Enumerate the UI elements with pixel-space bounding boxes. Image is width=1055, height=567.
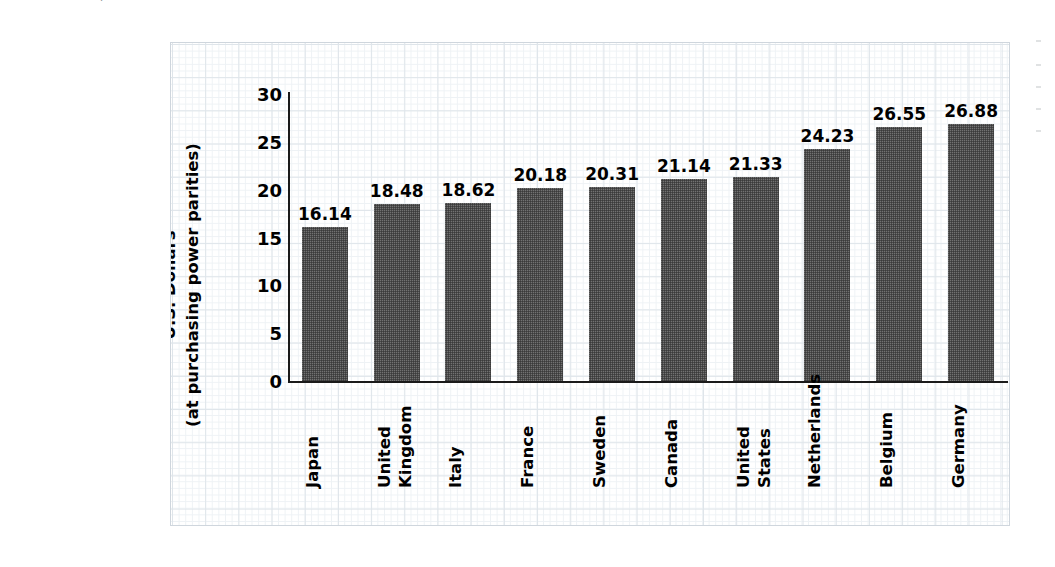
- y-axis-tick-5: 5: [269, 323, 282, 344]
- x-axis-category-label-line: United: [374, 338, 395, 488]
- bar-value-label: 21.33: [729, 154, 783, 174]
- y-axis-tick-0: 0: [269, 371, 282, 392]
- plot-area: 051015202530 16.14Japan18.48UnitedKingdo…: [289, 94, 1007, 381]
- scan-artifact-mark: [1036, 40, 1041, 42]
- bar-value-label: 20.31: [585, 164, 639, 184]
- bar-value-label: 26.55: [872, 104, 926, 124]
- x-axis-category-label: Japan: [302, 338, 348, 488]
- bar-value-label: 24.23: [801, 126, 855, 146]
- bar-group: 18.62Italy: [433, 94, 505, 381]
- bar-group: 18.48UnitedKingdom: [361, 94, 433, 381]
- x-axis-category-label: UnitedStates: [733, 338, 779, 488]
- x-axis-category-label-line: Kingdom: [395, 338, 416, 488]
- x-axis-category-label-line: Sweden: [589, 338, 610, 488]
- y-axis-tick-30: 30: [257, 84, 282, 105]
- y-axis-tick-20: 20: [257, 179, 282, 200]
- bar-group: 20.31Sweden: [576, 94, 648, 381]
- y-axis-tick-10: 10: [257, 275, 282, 296]
- bar-group: 16.14Japan: [289, 94, 361, 381]
- x-axis-category-label: Germany: [948, 338, 994, 488]
- scan-artifact-mark: [1036, 130, 1041, 132]
- chart-container: U.S. Dollars (at purchasing power pariti…: [170, 42, 1010, 526]
- bar-group: 21.14Canada: [648, 94, 720, 381]
- scan-artifact-mark: [1036, 64, 1041, 66]
- x-axis-category-label: Italy: [445, 338, 491, 488]
- x-axis-category-label-line: States: [754, 338, 775, 488]
- x-axis-category-label-line: Netherlands: [804, 338, 825, 488]
- bar-value-label: 18.62: [442, 180, 496, 200]
- x-axis-category-label-line: Germany: [948, 338, 969, 488]
- bar-value-label: 18.48: [370, 181, 424, 201]
- x-axis-category-label: Sweden: [589, 338, 635, 488]
- bar-group: 21.33UnitedStates: [720, 94, 792, 381]
- y-axis-tick-25: 25: [257, 131, 282, 152]
- scan-artifact-mark: [1036, 108, 1041, 110]
- scan-artifact-mark: [1036, 86, 1041, 88]
- bar-value-label: 21.14: [657, 156, 711, 176]
- bar-group: 24.23Netherlands: [792, 94, 864, 381]
- bar-value-label: 26.88: [944, 101, 998, 121]
- x-axis-category-label-line: France: [517, 338, 538, 488]
- x-axis-category-label-line: Italy: [445, 338, 466, 488]
- bar-value-label: 20.18: [513, 165, 567, 185]
- x-axis-category-label-line: Belgium: [876, 338, 897, 488]
- x-axis-category-label: Belgium: [876, 338, 922, 488]
- x-axis-category-label: France: [517, 338, 563, 488]
- x-axis-category-label: Canada: [661, 338, 707, 488]
- y-axis-tick-15: 15: [257, 227, 282, 248]
- x-axis-category-label: UnitedKingdom: [374, 338, 420, 488]
- x-axis-category-label-line: Canada: [661, 338, 682, 488]
- bar-group: 26.55Belgium: [863, 94, 935, 381]
- bar-group: 20.18France: [504, 94, 576, 381]
- scan-edge-artifact: [1036, 38, 1042, 150]
- x-axis-category-label: Netherlands: [804, 338, 850, 488]
- bar-value-label: 16.14: [298, 204, 352, 224]
- x-axis-category-label-line: Japan: [302, 338, 323, 488]
- x-axis-category-label-line: United: [733, 338, 754, 488]
- bar-group: 26.88Germany: [935, 94, 1007, 381]
